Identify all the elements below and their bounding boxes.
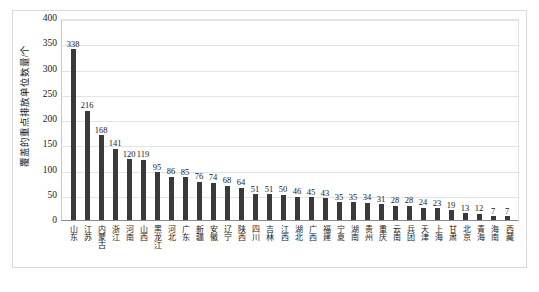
x-category-label: 新疆	[195, 225, 203, 241]
x-label-slot: 宁夏	[332, 223, 346, 271]
y-tick-label: 50	[48, 191, 58, 201]
bar-slot[interactable]: 31	[374, 20, 388, 220]
bar-slot[interactable]: 45	[304, 20, 318, 220]
bar[interactable]	[379, 204, 384, 220]
bar[interactable]	[477, 214, 482, 220]
bar[interactable]	[225, 186, 230, 220]
bar-slot[interactable]: 338	[66, 20, 80, 220]
x-label-slot: 河北	[163, 223, 177, 271]
x-label-slot: 西藏	[501, 223, 515, 271]
bar-value-label: 7	[505, 207, 509, 216]
bar-slot[interactable]: 34	[360, 20, 374, 220]
bar-value-label: 28	[405, 196, 414, 205]
bar-slot[interactable]: 35	[332, 20, 346, 220]
x-label-slot: 湖北	[290, 223, 304, 271]
bar[interactable]	[281, 195, 286, 220]
bar[interactable]	[407, 206, 412, 220]
bar[interactable]	[113, 149, 118, 220]
bar-slot[interactable]: 28	[402, 20, 416, 220]
bar-value-label: 120	[123, 150, 136, 159]
bar-value-label: 95	[153, 163, 162, 172]
bar[interactable]	[323, 198, 328, 220]
x-label-slot: 陕西	[234, 223, 248, 271]
bar-slot[interactable]: 74	[206, 20, 220, 220]
bar[interactable]	[155, 172, 160, 220]
bar[interactable]	[197, 182, 202, 220]
bar[interactable]	[239, 188, 244, 220]
bar[interactable]	[295, 197, 300, 220]
bar-slot[interactable]: 119	[136, 20, 150, 220]
bar-value-label: 45	[307, 188, 316, 197]
x-label-slot: 云南	[388, 223, 402, 271]
x-label-slot: 湖南	[346, 223, 360, 271]
bar[interactable]	[463, 213, 468, 220]
x-category-label: 福建	[321, 225, 329, 241]
bar[interactable]	[169, 177, 174, 220]
x-label-slot: 海南	[487, 223, 501, 271]
x-category-label: 甘肃	[448, 225, 456, 241]
bar[interactable]	[253, 194, 258, 220]
x-category-label: 内蒙古	[96, 225, 104, 249]
bar-value-label: 216	[81, 101, 94, 110]
bar[interactable]	[127, 159, 132, 220]
bar[interactable]	[393, 206, 398, 220]
bar-value-label: 50	[279, 185, 288, 194]
bar[interactable]	[211, 183, 216, 220]
bar-slot[interactable]: 216	[80, 20, 94, 220]
bar-slot[interactable]: 35	[346, 20, 360, 220]
x-label-slot: 兵团	[403, 223, 417, 271]
bar-slot[interactable]: 85	[178, 20, 192, 220]
bar-slot[interactable]: 141	[108, 20, 122, 220]
bar-slot[interactable]: 13	[458, 20, 472, 220]
bar[interactable]	[435, 208, 440, 220]
x-label-slot: 北京	[459, 223, 473, 271]
bar-slot[interactable]: 43	[318, 20, 332, 220]
bar-slot[interactable]: 168	[94, 20, 108, 220]
bar[interactable]	[267, 194, 272, 220]
bar-slot[interactable]: 86	[164, 20, 178, 220]
bar[interactable]	[505, 216, 510, 220]
bar-slot[interactable]: 51	[262, 20, 276, 220]
bar-slot[interactable]: 7	[500, 20, 514, 220]
bar-slot[interactable]: 76	[192, 20, 206, 220]
bar-value-label: 141	[109, 139, 122, 148]
bar[interactable]	[309, 197, 314, 220]
bar-slot[interactable]: 12	[472, 20, 486, 220]
bar-slot[interactable]: 24	[416, 20, 430, 220]
bar-slot[interactable]: 95	[150, 20, 164, 220]
bar[interactable]	[99, 135, 104, 220]
x-label-slot: 广西	[304, 223, 318, 271]
bar-slot[interactable]: 23	[430, 20, 444, 220]
bar-slot[interactable]: 7	[486, 20, 500, 220]
bar-value-label: 85	[181, 168, 190, 177]
bar[interactable]	[449, 210, 454, 220]
x-category-label: 北京	[462, 225, 470, 241]
bar-slot[interactable]: 51	[248, 20, 262, 220]
bar-value-label: 51	[265, 185, 274, 194]
x-label-slot: 河南	[121, 223, 135, 271]
bar[interactable]	[337, 202, 342, 220]
bar[interactable]	[183, 177, 188, 220]
bar[interactable]	[85, 111, 90, 220]
x-category-label: 安徽	[209, 225, 217, 241]
bar[interactable]	[351, 202, 356, 220]
x-category-label: 贵州	[363, 225, 371, 241]
bar-slot[interactable]: 64	[234, 20, 248, 220]
plot-area: 3382161681411201199586857674686451515046…	[61, 19, 519, 221]
bar-slot[interactable]: 28	[388, 20, 402, 220]
chart-frame: 覆盖的重点排放单位数量/个 400350300250200150100500 3…	[12, 10, 527, 268]
x-category-label: 黑龙江	[152, 225, 160, 249]
bar[interactable]	[71, 49, 76, 220]
bar[interactable]	[365, 203, 370, 220]
bar[interactable]	[141, 160, 146, 220]
y-tick-label: 150	[43, 141, 57, 151]
bar-slot[interactable]: 19	[444, 20, 458, 220]
bar-slot[interactable]: 50	[276, 20, 290, 220]
bar-value-label: 338	[67, 40, 80, 49]
bar[interactable]	[491, 216, 496, 220]
bar-slot[interactable]: 120	[122, 20, 136, 220]
bar-slot[interactable]: 68	[220, 20, 234, 220]
bar-slot[interactable]: 46	[290, 20, 304, 220]
bar[interactable]	[421, 208, 426, 220]
y-tick-label: 400	[43, 14, 57, 24]
